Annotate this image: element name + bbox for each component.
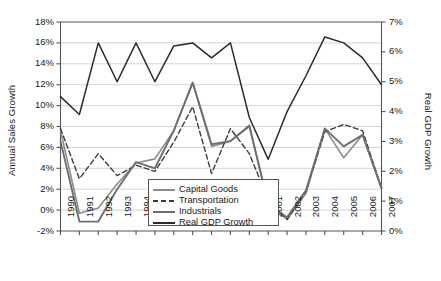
y-axis-right-title: Real GDP Growth	[423, 72, 434, 192]
y-axis-left-tick-label: 0%	[20, 204, 54, 215]
x-axis-tick-label: 2004	[329, 196, 340, 236]
y-axis-right-tick-label: 3%	[389, 135, 423, 146]
x-axis-tick-label: 1993	[122, 196, 133, 236]
legend-swatch-icon	[153, 189, 175, 191]
legend-label: Real GDP Growth	[179, 217, 253, 227]
y-axis-left-tick-label: 12%	[20, 78, 54, 89]
y-axis-right-tick-label: 2%	[389, 165, 423, 176]
x-axis-tick-label: 2006	[367, 196, 378, 236]
legend-label: Industrials	[179, 206, 221, 216]
y-axis-left-tick-label: -2%	[20, 225, 54, 236]
x-axis-tick-label: 2002	[292, 196, 303, 236]
plot-area	[0, 0, 441, 281]
y-axis-right-tick-label: 6%	[389, 45, 423, 56]
y-axis-left-tick-label: 8%	[20, 120, 54, 131]
legend-swatch-icon	[153, 200, 175, 202]
x-axis-tick-label: 2003	[310, 196, 321, 236]
y-axis-right-tick-label: 7%	[389, 16, 423, 27]
legend-label: Transportation	[179, 195, 239, 205]
x-axis-tick-label: 2005	[348, 196, 359, 236]
x-axis-tick-label: 1992	[103, 196, 114, 236]
legend-swatch-icon	[153, 222, 175, 224]
y-axis-left-tick-label: 10%	[20, 99, 54, 110]
legend-label: Capital Goods	[179, 184, 238, 194]
x-axis-tick-label: 1991	[84, 196, 95, 236]
chart-legend: Capital GoodsTransportationIndustrialsRe…	[148, 179, 279, 226]
x-axis-tick-label: 1990	[65, 196, 76, 236]
y-axis-left-tick-label: 14%	[20, 57, 54, 68]
y-axis-right-tick-label: 5%	[389, 75, 423, 86]
y-axis-left-tick-label: 18%	[20, 16, 54, 27]
y-axis-left-tick-label: 4%	[20, 162, 54, 173]
y-axis-left-title: Annual Sales Growth	[6, 71, 17, 191]
chart-figure: Annual Sales Growth Real GDP Growth -2%0…	[0, 0, 441, 281]
legend-swatch-icon	[153, 211, 175, 213]
x-axis-tick-label: 2007	[386, 196, 397, 236]
y-axis-left-tick-label: 2%	[20, 183, 54, 194]
y-axis-left-tick-label: 16%	[20, 36, 54, 47]
y-axis-left-tick-label: 6%	[20, 141, 54, 152]
y-axis-right-tick-label: 4%	[389, 105, 423, 116]
